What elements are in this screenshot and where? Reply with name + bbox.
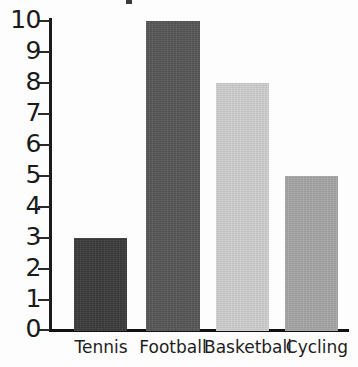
bar-football[interactable]: [146, 21, 200, 331]
y-axis-label-10: 10: [7, 7, 41, 32]
y-axis-label-9: 9: [7, 38, 41, 63]
bar-cycling[interactable]: [285, 176, 338, 331]
y-axis-label-8: 8: [7, 69, 41, 94]
y-axis-label-7: 7: [7, 100, 41, 125]
y-axis-label-0: 0: [7, 316, 41, 341]
y-axis-label-6: 6: [7, 131, 41, 156]
bar-basketball[interactable]: [216, 83, 269, 331]
y-axis-label-3: 3: [7, 224, 41, 249]
y-axis-label-2: 2: [7, 255, 41, 280]
bar-cycling-fill: [285, 176, 338, 331]
bar-football-fill: [146, 21, 200, 331]
bar-basketball-fill: [216, 83, 269, 331]
x-axis-label-basketball: Basketball: [204, 336, 282, 358]
y-axis-label-4: 4: [7, 193, 41, 218]
bar-tennis-fill: [74, 238, 127, 331]
x-axis-label-cycling: Cycling: [278, 336, 356, 358]
chart-page: 10 9 8 7 6 5 4 3 2 1 0 Tennis Football B…: [0, 0, 358, 367]
y-axis-label-5: 5: [7, 162, 41, 187]
y-axis-label-1: 1: [7, 286, 41, 311]
bar-tennis[interactable]: [74, 238, 127, 331]
bar-chart-plot-area: 10 9 8 7 6 5 4 3 2 1 0 Tennis Football B…: [0, 0, 358, 367]
